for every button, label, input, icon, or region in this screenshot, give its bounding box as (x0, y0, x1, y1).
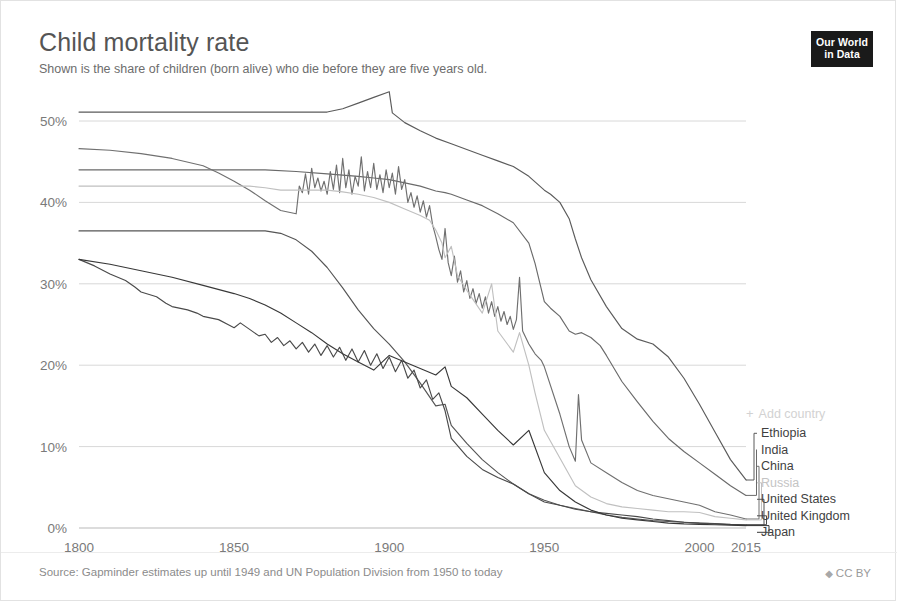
y-axis-tick-label: 0% (47, 521, 67, 536)
series-line-ethiopia[interactable] (79, 92, 746, 480)
y-axis-tick-label: 50% (40, 114, 67, 129)
series-line-india[interactable] (79, 170, 746, 496)
legend-item-united-kingdom[interactable]: United Kingdom (761, 508, 886, 525)
license-label: CC BY (836, 567, 871, 579)
chart-subtitle: Shown is the share of children (born ali… (39, 62, 739, 78)
legend-item-russia[interactable]: Russia (761, 475, 886, 492)
add-country-label: Add country (759, 407, 826, 421)
series-line-united-states[interactable] (79, 231, 746, 525)
chart-header: Child mortality rate Shown is the share … (39, 29, 739, 77)
footer-divider (1, 552, 897, 553)
legend-leader-india (746, 450, 757, 496)
license-control[interactable]: ◆CC BY (825, 567, 871, 579)
series-legend: EthiopiaIndiaChinaRussiaUnited StatesUni… (761, 425, 886, 541)
page-title: Child mortality rate (39, 29, 739, 57)
y-axis-tick-label: 10% (40, 440, 67, 455)
legend-leader-china (746, 466, 759, 519)
legend-item-china[interactable]: China (761, 458, 886, 475)
y-axis-tick-label: 30% (40, 277, 67, 292)
add-country-button[interactable]: +Add country (746, 406, 825, 421)
series-line-russia[interactable] (79, 186, 746, 520)
legend-item-united-states[interactable]: United States (761, 491, 886, 508)
up-down-chevron-icon: ◆ (825, 568, 833, 579)
legend-leader-ethiopia (746, 433, 757, 480)
legend-item-india[interactable]: India (761, 442, 886, 459)
legend-item-japan[interactable]: Japan (761, 524, 886, 541)
y-axis-tick-label: 40% (40, 195, 67, 210)
legend-leader-russia (746, 483, 762, 520)
plus-icon: + (746, 406, 754, 421)
y-axis-tick-label: 20% (40, 358, 67, 373)
source-note: Source: Gapminder estimates up until 194… (39, 566, 502, 578)
series-line-japan[interactable] (79, 259, 746, 525)
series-line-united-kingdom[interactable] (79, 259, 746, 524)
our-world-in-data-logo[interactable]: Our World in Data (811, 31, 873, 67)
legend-item-ethiopia[interactable]: Ethiopia (761, 425, 886, 442)
logo-line-2: in Data (824, 49, 860, 61)
series-line-china[interactable] (79, 149, 746, 519)
